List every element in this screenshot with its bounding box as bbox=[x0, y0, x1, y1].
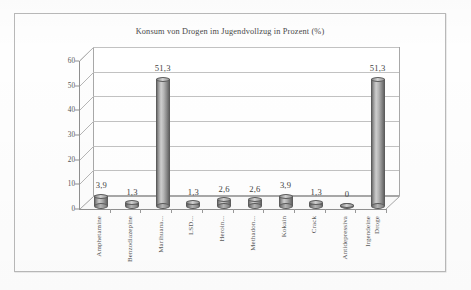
x-tick-mark bbox=[110, 209, 111, 213]
bar[interactable] bbox=[332, 200, 363, 209]
x-tick-mark bbox=[202, 209, 203, 213]
bar-cylinder bbox=[186, 198, 200, 209]
scanned-page: Konsum von Drogen im Jugendvollzug in Pr… bbox=[0, 0, 471, 290]
x-axis-label: IrgendeineDroge bbox=[363, 216, 380, 247]
bar-cylinder bbox=[279, 191, 293, 209]
bar-cylinder-base bbox=[248, 203, 262, 209]
bar-cylinder-body bbox=[156, 79, 170, 206]
x-axis-label: Methadon... bbox=[249, 216, 257, 251]
x-tick-mark bbox=[140, 209, 141, 213]
x-axis-label: LSD... bbox=[187, 216, 195, 235]
bar-cylinder-top bbox=[156, 77, 170, 82]
x-axis-label-slot: IrgendeineDroge bbox=[356, 214, 387, 280]
bar-cylinder bbox=[94, 191, 108, 209]
x-tick-mark bbox=[355, 209, 356, 213]
bar[interactable] bbox=[117, 198, 148, 209]
bar-value-label: 1,3 bbox=[188, 187, 199, 197]
bar-cylinder-base bbox=[156, 203, 170, 209]
bar-cylinder-top bbox=[371, 77, 385, 82]
bar-cylinder-body bbox=[371, 79, 385, 206]
bar-value-label: 2,6 bbox=[249, 184, 260, 194]
bar-value-label: 3,9 bbox=[280, 180, 291, 190]
x-axis-label: Antidepressiva bbox=[341, 216, 349, 259]
x-axis-label-slot: Antidepressiva bbox=[326, 214, 357, 280]
x-axis-label-slot: Crack bbox=[295, 214, 326, 280]
x-axis-label-slot: Benzodiazepine bbox=[111, 214, 142, 280]
bar-cylinder-base bbox=[94, 203, 108, 209]
x-axis-label: Amphetamine bbox=[95, 216, 103, 257]
x-tick-mark bbox=[233, 209, 234, 213]
x-axis-label: Heroin... bbox=[218, 216, 226, 242]
bar[interactable] bbox=[178, 198, 209, 209]
bar-cylinder bbox=[156, 74, 170, 209]
bar[interactable] bbox=[209, 195, 240, 209]
x-axis-label: Crack bbox=[310, 216, 318, 233]
bar-value-label: 2,6 bbox=[218, 184, 229, 194]
bar-cylinder bbox=[248, 195, 262, 209]
bar-cylinder-base bbox=[279, 203, 293, 209]
bar-cylinder-top bbox=[94, 194, 108, 199]
x-axis-label-slot: Amphetamine bbox=[80, 214, 111, 280]
bar[interactable] bbox=[362, 74, 393, 209]
x-axis-label: Kokain bbox=[280, 216, 288, 237]
bar-value-label: 51,3 bbox=[155, 63, 171, 73]
x-axis-label-line: Irgendeine bbox=[363, 216, 372, 247]
x-tick-mark bbox=[325, 209, 326, 213]
bar-value-label: 1,3 bbox=[126, 187, 137, 197]
x-axis-label-slot: LSD... bbox=[172, 214, 203, 280]
bar-cylinder-top bbox=[125, 200, 139, 205]
plot-area: 0102030405060 3,91,351,31,32,62,63,91,30… bbox=[15, 14, 447, 273]
x-tick-mark bbox=[386, 209, 387, 213]
bar-cylinder-top bbox=[279, 194, 293, 199]
bar-cylinder bbox=[125, 198, 139, 209]
bar[interactable] bbox=[240, 195, 271, 209]
x-axis-label-slot: Heroin... bbox=[203, 214, 234, 280]
bar[interactable] bbox=[86, 191, 117, 209]
bar-value-label: 0 bbox=[345, 189, 350, 199]
x-tick-mark bbox=[171, 209, 172, 213]
bar-value-label: 1,3 bbox=[311, 187, 322, 197]
bar[interactable] bbox=[301, 198, 332, 209]
bar-cylinder-base bbox=[371, 203, 385, 209]
bar-cylinder bbox=[309, 198, 323, 209]
x-tick-mark bbox=[263, 209, 264, 213]
x-axis-label-slot: Marihuana... bbox=[141, 214, 172, 280]
x-tick-mark bbox=[294, 209, 295, 213]
bar-cylinder bbox=[217, 195, 231, 209]
x-axis-label: Benzodiazepine bbox=[126, 216, 134, 262]
bar-cylinder-base bbox=[217, 203, 231, 209]
x-axis-label: Marihuana... bbox=[157, 216, 165, 253]
bar-cylinder-top bbox=[217, 197, 231, 202]
bar[interactable] bbox=[270, 191, 301, 209]
bar-cylinder-top bbox=[186, 200, 200, 205]
bar-cylinder bbox=[340, 200, 354, 209]
bar-value-label: 51,3 bbox=[370, 63, 386, 73]
bar-cylinder-top bbox=[340, 203, 354, 208]
bar-cylinder-top bbox=[309, 200, 323, 205]
bar-value-label: 3,9 bbox=[96, 180, 107, 190]
x-axis-label-slot: Kokain bbox=[264, 214, 295, 280]
x-axis-label-line: Droge bbox=[372, 216, 381, 247]
chart-outer-frame: Konsum von Drogen im Jugendvollzug in Pr… bbox=[14, 13, 446, 272]
x-axis-label-slot: Methadon... bbox=[234, 214, 265, 280]
bar-cylinder-top bbox=[248, 197, 262, 202]
bar-cylinder bbox=[371, 74, 385, 209]
bar[interactable] bbox=[147, 74, 178, 209]
